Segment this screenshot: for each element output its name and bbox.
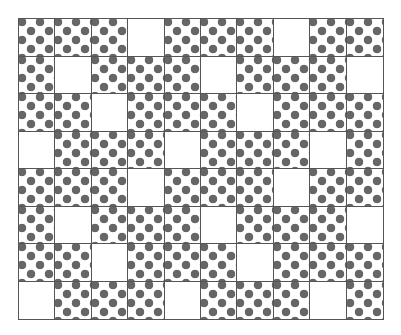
blank-cell xyxy=(165,132,201,170)
dotted-cell xyxy=(237,282,273,320)
dotted-cell xyxy=(55,169,91,207)
dotted-cell xyxy=(128,244,164,282)
dotted-cell xyxy=(201,282,237,320)
dotted-cell xyxy=(237,207,273,245)
dotted-cell xyxy=(237,132,273,170)
blank-cell xyxy=(274,169,310,207)
dotted-cell xyxy=(310,169,346,207)
blank-cell xyxy=(92,94,128,132)
dotted-cell xyxy=(274,207,310,245)
blank-cell xyxy=(201,57,237,95)
dotted-cell xyxy=(274,282,310,320)
dotted-cell xyxy=(19,19,55,57)
dotted-cell xyxy=(347,169,383,207)
dotted-cell xyxy=(347,282,383,320)
blank-cell xyxy=(128,169,164,207)
dotted-cell xyxy=(310,19,346,57)
dotted-cell xyxy=(201,169,237,207)
dotted-cell xyxy=(347,19,383,57)
blank-cell xyxy=(19,132,55,170)
blank-cell xyxy=(201,207,237,245)
dotted-cell xyxy=(274,57,310,95)
dotted-cell xyxy=(55,94,91,132)
dotted-cell xyxy=(237,169,273,207)
blank-cell xyxy=(92,244,128,282)
dotted-cell xyxy=(165,57,201,95)
blank-cell xyxy=(55,207,91,245)
dotted-cell xyxy=(165,207,201,245)
dotted-cell xyxy=(128,282,164,320)
dotted-cell xyxy=(92,207,128,245)
dotted-cell xyxy=(165,94,201,132)
blank-cell xyxy=(347,57,383,95)
dotted-cell xyxy=(165,244,201,282)
blank-cell xyxy=(19,282,55,320)
blank-cell xyxy=(310,282,346,320)
dotted-cell xyxy=(310,244,346,282)
blank-cell xyxy=(128,19,164,57)
dotted-cell xyxy=(55,282,91,320)
dotted-cell xyxy=(55,19,91,57)
dotted-cell xyxy=(128,132,164,170)
dotted-cell xyxy=(128,94,164,132)
dotted-cell xyxy=(310,57,346,95)
dotted-cell xyxy=(165,19,201,57)
blank-cell xyxy=(237,244,273,282)
dotted-cell xyxy=(237,19,273,57)
dotted-cell xyxy=(347,94,383,132)
dotted-cell xyxy=(310,94,346,132)
dotted-cell xyxy=(55,244,91,282)
dotted-cell xyxy=(92,57,128,95)
dotted-cell xyxy=(92,132,128,170)
blank-cell xyxy=(347,207,383,245)
dotted-cell xyxy=(55,132,91,170)
dotted-cell xyxy=(347,132,383,170)
dotted-cell xyxy=(19,244,55,282)
dotted-cell xyxy=(201,19,237,57)
dotted-cell xyxy=(19,207,55,245)
dotted-cell xyxy=(237,57,273,95)
blank-cell xyxy=(165,282,201,320)
dotted-grid xyxy=(18,18,384,320)
dotted-cell xyxy=(19,57,55,95)
dotted-cell xyxy=(92,282,128,320)
blank-cell xyxy=(310,132,346,170)
dotted-cell xyxy=(274,244,310,282)
dotted-cell xyxy=(201,132,237,170)
dotted-cell xyxy=(310,207,346,245)
dotted-cell xyxy=(201,94,237,132)
dotted-cell xyxy=(347,244,383,282)
dotted-cell xyxy=(19,169,55,207)
dotted-cell xyxy=(165,169,201,207)
blank-cell xyxy=(237,94,273,132)
dotted-cell xyxy=(274,132,310,170)
dotted-cell xyxy=(128,57,164,95)
dotted-cell xyxy=(128,207,164,245)
blank-cell xyxy=(55,57,91,95)
dotted-cell xyxy=(201,244,237,282)
dotted-cell xyxy=(92,169,128,207)
dotted-cell xyxy=(19,94,55,132)
dotted-cell xyxy=(92,19,128,57)
dotted-cell xyxy=(274,94,310,132)
blank-cell xyxy=(274,19,310,57)
